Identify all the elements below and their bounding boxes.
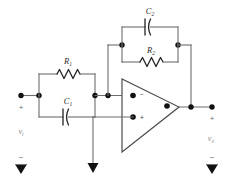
resistor-r2-zigzag bbox=[140, 58, 163, 67]
capacitor-c2-label: C2 bbox=[146, 6, 155, 17]
resistor-r1-zigzag bbox=[57, 70, 80, 79]
capacitor-c2-subscript: 2 bbox=[151, 11, 154, 17]
opamp-output-pin bbox=[164, 103, 170, 109]
output-plus-sign: + bbox=[210, 114, 215, 123]
input-terminal-group: + vi − bbox=[15, 93, 42, 174]
input-voltage-subscript: i bbox=[22, 131, 24, 137]
circuit-diagram: + vi − R1 bbox=[0, 0, 226, 188]
node-input-terminal bbox=[18, 93, 23, 98]
opamp-noninverting-sign: + bbox=[140, 114, 144, 121]
capacitor-c1-label: C1 bbox=[64, 96, 73, 107]
opamp-inverting-input-pin bbox=[130, 93, 136, 99]
capacitor-c1-subscript: 1 bbox=[69, 101, 72, 107]
input-network-group: R1 C1 bbox=[39, 56, 98, 125]
resistor-r2-subscript: 2 bbox=[152, 50, 155, 56]
resistor-r1-subscript: 1 bbox=[69, 61, 72, 67]
resistor-r1-label: R1 bbox=[63, 56, 72, 67]
noninverting-ground-triangle bbox=[88, 163, 99, 173]
opamp-group: − + bbox=[122, 79, 179, 152]
input-voltage-label: vi bbox=[18, 127, 24, 137]
output-rail-group: + vo − bbox=[178, 45, 218, 174]
output-voltage-subscript: o bbox=[211, 138, 214, 144]
output-voltage-label: vo bbox=[208, 134, 215, 144]
resistor-r2-label: R2 bbox=[146, 45, 155, 56]
schematic-canvas: + vi − R1 bbox=[0, 0, 226, 188]
input-plus-sign: + bbox=[19, 103, 24, 112]
opamp-inverting-sign: − bbox=[140, 91, 144, 98]
feedback-network-group: C2 R2 bbox=[119, 6, 180, 67]
node-output-junction bbox=[188, 104, 193, 109]
input-minus-sign: − bbox=[19, 153, 24, 162]
output-minus-sign: − bbox=[210, 153, 215, 162]
opamp-triangle-body bbox=[122, 79, 179, 152]
output-ground-triangle bbox=[207, 165, 218, 174]
input-ground-triangle bbox=[16, 165, 27, 174]
output-ground-symbol bbox=[206, 165, 218, 175]
input-ground-symbol bbox=[15, 165, 27, 175]
node-output-terminal bbox=[209, 104, 214, 109]
